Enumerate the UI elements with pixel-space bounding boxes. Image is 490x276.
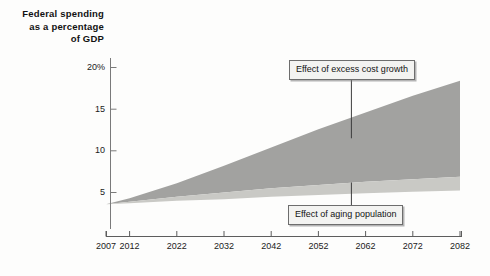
x-axis-ticks <box>106 231 460 237</box>
y-tick-label-20%: 20% <box>55 62 105 72</box>
callout-excess-cost-growth: Effect of excess cost growth <box>289 60 415 80</box>
x-tick-label-2072: 2072 <box>393 241 433 251</box>
x-tick-label-2082: 2082 <box>440 241 480 251</box>
x-tick-label-2042: 2042 <box>251 241 291 251</box>
callout-aging-population: Effect of aging population <box>288 205 403 225</box>
chart-container: Federal spending as a percentage of GDP … <box>0 0 490 276</box>
y-tick-label-10: 10 <box>55 145 105 155</box>
x-tick-label-2022: 2022 <box>157 241 197 251</box>
x-tick-label-2052: 2052 <box>298 241 338 251</box>
y-tick-label-15: 15 <box>55 104 105 114</box>
plot-area <box>0 0 490 276</box>
x-tick-label-2062: 2062 <box>346 241 386 251</box>
y-tick-label-5: 5 <box>55 187 105 197</box>
data-bands <box>106 81 460 204</box>
x-tick-label-2032: 2032 <box>204 241 244 251</box>
y-axis-ticks <box>111 68 117 193</box>
x-tick-label-2012: 2012 <box>110 241 150 251</box>
